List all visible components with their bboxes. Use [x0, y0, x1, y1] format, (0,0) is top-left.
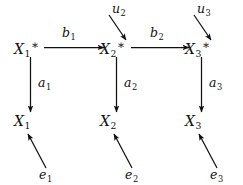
disturbance-e1-subscript: 1 [46, 174, 52, 184]
node-x1-subscript: 1 [24, 120, 30, 131]
edge-label-b2: b2 [150, 27, 164, 41]
edge-u2-to-x2star [109, 15, 126, 40]
input-label-u3: u3 [197, 3, 211, 17]
edge-a2-subscript: 2 [131, 82, 137, 92]
input-u3-subscript: 3 [205, 8, 211, 18]
node-x2-star-asterisk: ∗ [116, 38, 125, 52]
edge-b1-base: b [62, 25, 70, 40]
edge-b1-subscript: 1 [70, 32, 76, 42]
node-x2-star: X2∗ [100, 40, 125, 58]
edge-e2-to-x2 [114, 134, 132, 168]
disturbance-label-e3: e3 [210, 169, 223, 183]
edge-e1-to-x1 [28, 134, 46, 168]
disturbance-label-e1: e1 [39, 169, 52, 183]
edge-a1-subscript: 1 [45, 82, 51, 92]
edge-u3-to-x3star [194, 15, 211, 40]
node-x2: X2 [100, 114, 116, 130]
input-label-u2: u2 [112, 3, 126, 17]
diagram-canvas: X1∗ X2∗ X3∗ X1 X2 X3 u2 u3 b1 b2 a1 a2 a… [0, 0, 243, 185]
node-x3-star-base: X [185, 41, 195, 57]
node-x3-star-asterisk: ∗ [201, 38, 210, 52]
edge-b2-subscript: 2 [158, 32, 164, 42]
node-x2-star-base: X [100, 41, 110, 57]
node-x2-subscript: 2 [110, 120, 116, 131]
edge-b2-base: b [150, 25, 158, 40]
node-x3-subscript: 3 [195, 120, 201, 131]
node-x3-star: X3∗ [185, 40, 210, 58]
edge-e3-to-x3 [199, 134, 217, 168]
edge-label-a3: a3 [209, 77, 222, 91]
node-x1-star-base: X [14, 41, 24, 57]
diagram-arrows-layer [0, 0, 243, 185]
disturbance-e2-subscript: 2 [132, 174, 138, 184]
node-x2-base: X [100, 113, 110, 129]
input-u3-base: u [197, 1, 205, 16]
edge-a3-subscript: 3 [216, 82, 222, 92]
edge-label-a2: a2 [124, 77, 137, 91]
node-x1-base: X [14, 113, 24, 129]
input-u2-subscript: 2 [120, 8, 126, 18]
node-x1-star-asterisk: ∗ [30, 38, 39, 52]
node-x1: X1 [14, 114, 30, 130]
node-x3-base: X [185, 113, 195, 129]
edge-label-b1: b1 [62, 27, 76, 41]
input-u2-base: u [112, 1, 120, 16]
disturbance-e3-subscript: 3 [217, 174, 223, 184]
disturbance-label-e2: e2 [125, 169, 138, 183]
edge-label-a1: a1 [38, 77, 51, 91]
node-x3: X3 [185, 114, 201, 130]
node-x1-star: X1∗ [14, 40, 39, 58]
